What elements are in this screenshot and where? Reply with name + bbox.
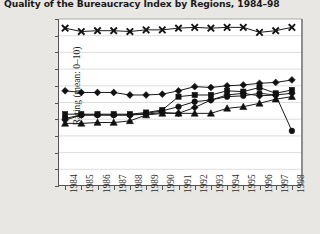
x-tick-mark xyxy=(179,186,180,190)
plot-area: Rating (mean: 0–10) 0.01.02.03.04.05.06.… xyxy=(58,19,301,186)
data-point-marker xyxy=(192,92,197,97)
x-tick-mark xyxy=(114,186,115,190)
data-point-marker xyxy=(191,83,198,90)
chart-container: Quality of the Bureaucracy Index by Regi… xyxy=(0,0,320,234)
data-point-marker xyxy=(289,128,295,134)
data-point-marker xyxy=(257,85,262,90)
chart-plot-svg xyxy=(59,19,302,186)
data-point-marker xyxy=(126,117,133,123)
x-tick-mark xyxy=(162,186,163,190)
x-tick-mark xyxy=(227,186,228,190)
x-tick-mark xyxy=(146,186,147,190)
x-tick-mark xyxy=(195,186,196,190)
x-tick-mark xyxy=(98,186,99,190)
data-point-marker xyxy=(272,79,279,86)
chart-title: Quality of the Bureaucracy Index by Regi… xyxy=(4,0,316,10)
x-tick-mark xyxy=(81,186,82,190)
data-point-marker xyxy=(289,77,296,84)
data-point-marker xyxy=(110,89,117,96)
data-point-marker xyxy=(176,104,182,110)
x-tick-mark xyxy=(243,186,244,190)
data-point-marker xyxy=(176,94,181,99)
data-point-marker xyxy=(62,87,69,94)
data-point-marker xyxy=(175,87,182,94)
data-point-marker xyxy=(192,99,198,105)
x-tick-mark xyxy=(211,186,212,190)
data-point-marker xyxy=(78,89,85,96)
data-point-marker xyxy=(143,92,150,99)
y-tick-mark xyxy=(55,186,59,187)
data-point-marker xyxy=(208,84,215,91)
x-tick-mark xyxy=(130,186,131,190)
x-tick-mark xyxy=(292,186,293,190)
x-tick-mark xyxy=(260,186,261,190)
data-point-marker xyxy=(127,92,134,99)
x-tick-mark xyxy=(276,186,277,190)
data-point-marker xyxy=(240,82,247,89)
data-point-marker xyxy=(159,91,166,98)
x-tick-mark xyxy=(65,186,66,190)
data-point-marker xyxy=(94,89,101,96)
